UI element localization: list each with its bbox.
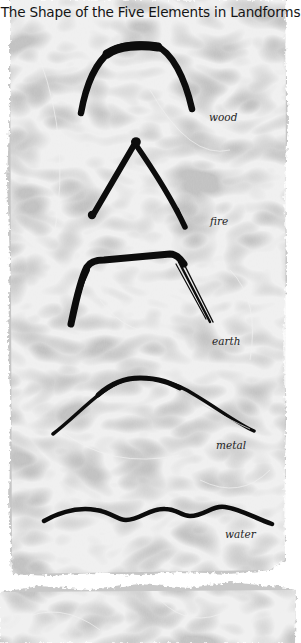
illustration-page: The Shape of the Five Elements in Landfo… bbox=[0, 0, 301, 643]
water-wave-stroke bbox=[0, 0, 301, 643]
water-label: water bbox=[225, 528, 256, 540]
